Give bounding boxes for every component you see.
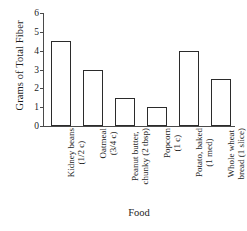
- bar: [147, 107, 167, 126]
- x-axis-tick-label: Oatmeal(3/4 c): [98, 128, 118, 159]
- y-axis-tick-label: 2: [28, 84, 39, 93]
- x-axis-tick-label-line1: Potato, baked: [194, 128, 204, 177]
- x-axis-tick-label-line2: (3/4 c): [108, 128, 118, 159]
- x-axis-tick-label-line1: Peanut butter,: [130, 131, 140, 181]
- x-axis-title: Food: [43, 207, 235, 218]
- x-axis-tick-label: Kidney beans(1/2 c): [66, 128, 86, 177]
- y-axis-tick-label: 4: [28, 46, 39, 55]
- x-axis-line: [43, 126, 235, 127]
- x-axis-tick-label: Whole wheatbread (1 slice): [226, 128, 246, 179]
- bar: [179, 51, 199, 126]
- y-axis-title: Grams of Total Fiber: [14, 1, 25, 131]
- y-axis-tick-mark: [40, 88, 44, 89]
- bar: [115, 98, 135, 126]
- bar: [211, 79, 231, 126]
- y-axis-tick-mark: [40, 70, 44, 71]
- bar: [51, 41, 71, 126]
- x-axis-tick-label-line1: Kidney beans: [66, 128, 76, 177]
- y-axis-tick-label-group: 0123456: [28, 13, 39, 126]
- y-axis-tick-mark: [40, 51, 44, 52]
- y-axis-tick-mark: [40, 13, 44, 14]
- plot-area: [43, 13, 235, 126]
- x-axis-tick-label-line2: (1 med): [204, 128, 214, 177]
- y-axis-tick-label: 3: [28, 65, 39, 74]
- y-axis-tick-label: 0: [28, 122, 39, 131]
- x-axis-tick-label-group: Kidney beans(1/2 c)Oatmeal(3/4 c)Peanut …: [43, 128, 235, 204]
- x-axis-tick-label: Potato, baked(1 med): [194, 128, 214, 177]
- fiber-bar-chart: Grams of Total Fiber 0123456 Kidney bean…: [0, 0, 247, 231]
- y-axis-tick-label: 1: [28, 103, 39, 112]
- y-axis-tick-label: 6: [28, 9, 39, 18]
- y-axis-tick-mark: [40, 32, 44, 33]
- y-axis-tick-mark: [40, 126, 44, 127]
- x-axis-tick-label-line2: (1/2 c): [76, 128, 86, 177]
- x-axis-tick-label-line1: Oatmeal: [98, 128, 108, 159]
- y-axis-tick-mark: [40, 107, 44, 108]
- bars-layer: [43, 13, 235, 126]
- x-axis-tick-label-line2: bread (1 slice): [236, 128, 246, 179]
- x-axis-tick-label: Peanut butter,chunky (2 tbsp): [130, 128, 150, 185]
- x-axis-tick-label-line2: chunky (2 tbsp): [140, 128, 150, 185]
- x-axis-tick-label-line1: Popcorn: [162, 128, 172, 158]
- x-axis-tick-label-line1: Whole wheat: [226, 130, 236, 178]
- bar: [83, 70, 103, 127]
- x-axis-tick-label: Popcorn(1 c): [162, 128, 182, 158]
- x-axis-tick-label-line2: (1 c): [172, 128, 182, 158]
- y-axis-tick-label: 5: [28, 27, 39, 36]
